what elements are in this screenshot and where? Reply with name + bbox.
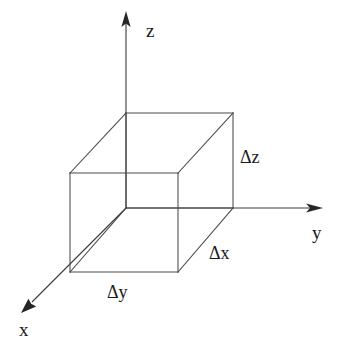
y-axis-label: y — [312, 222, 322, 243]
cartesian-volume-element-diagram: z y x Δz Δx Δy — [0, 0, 337, 349]
arrow-head-icon-x — [21, 299, 36, 313]
delta-z-label: Δz — [240, 147, 260, 167]
cube-edge-depth-top-right — [178, 113, 233, 173]
x-axis-label: x — [19, 319, 29, 340]
z-axis-label: z — [146, 20, 154, 41]
labels-group: z y x Δz Δx Δy — [19, 20, 322, 340]
diagram-canvas: z y x Δz Δx Δy — [0, 0, 337, 349]
delta-y-label: Δy — [107, 282, 128, 302]
cube-edge-depth-top-left — [70, 113, 126, 173]
delta-x-label: Δx — [209, 243, 230, 263]
cube-edge-depth-bottom-left — [70, 208, 126, 272]
axes-group — [21, 11, 323, 313]
